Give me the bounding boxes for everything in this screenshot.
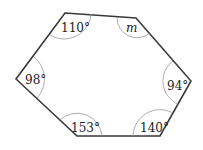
angle-label-right: 94° [167,79,188,93]
hexagon-diagram: 110° m 94° 140° 153° 98° [0,0,203,150]
angle-label-left: 98° [25,73,46,87]
angle-label-top-right: m [126,21,137,35]
angle-label-bottom-right: 140° [140,121,169,135]
angle-label-bottom-left: 153° [71,121,100,135]
angle-label-top-left: 110° [61,21,90,35]
